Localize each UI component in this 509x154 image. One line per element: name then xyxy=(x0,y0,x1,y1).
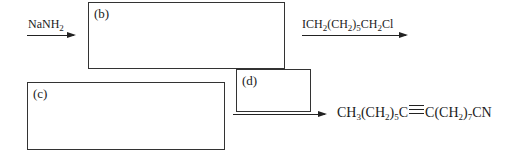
reaction-arrow-3 xyxy=(233,114,325,115)
reaction-arrow-2 xyxy=(302,35,406,36)
reagent-text: NaNH xyxy=(28,17,59,31)
answer-box-c[interactable]: (c) xyxy=(27,82,225,150)
box-label-c: (c) xyxy=(33,86,47,102)
reagent-text: CH xyxy=(361,17,378,31)
formula-text: CH xyxy=(337,105,356,120)
triple-bond-icon xyxy=(409,105,424,114)
box-label-b: (b) xyxy=(94,6,109,22)
reagent-text: ICH xyxy=(302,17,323,31)
answer-box-b[interactable]: (b) xyxy=(88,2,285,69)
reagent-text: Cl xyxy=(382,17,393,31)
box-label-d: (d) xyxy=(242,73,257,89)
reagent-subscript: 2 xyxy=(59,23,64,33)
formula-text: C(CH xyxy=(425,105,458,120)
formula-text: (CH xyxy=(361,105,385,120)
reaction-arrow-1 xyxy=(27,35,74,36)
reagent-text: (CH xyxy=(327,17,348,31)
answer-box-d[interactable]: (d) xyxy=(236,69,311,112)
formula-text: C xyxy=(399,105,408,120)
reagent-alkyl-halide: ICH2(CH2)5CH2Cl xyxy=(302,17,393,32)
product-formula: CH3(CH2)5CC(CH2)7CN xyxy=(337,105,492,121)
formula-text: CN xyxy=(472,105,491,120)
reagent-nanh2: NaNH2 xyxy=(28,17,64,32)
